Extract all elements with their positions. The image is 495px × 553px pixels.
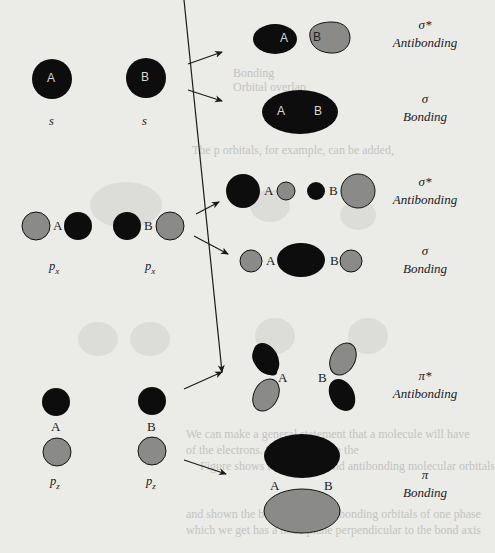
arrow-to-antibonding [196,202,219,214]
pz-a-top-lobe [42,388,70,416]
mo-name-bonding: Bonding [390,485,460,501]
mo-name-bonding: Bonding [390,109,460,125]
sigma-star-lobe-a [253,24,297,54]
atom-label-a: A [53,218,62,234]
pz-b-bottom-lobe [138,437,166,465]
mo-name-bonding: Bonding [390,261,460,277]
pi-bonding-top-lobe [264,434,340,478]
s-row [32,22,350,134]
sigma-px-central-lobe [277,243,325,277]
atom-label-a: A [270,478,279,494]
atom-label-b: B [313,30,321,44]
orbital-label-s-b: s [142,114,147,129]
px-b-positive-lobe [113,212,141,240]
atom-label-a: A [264,183,273,199]
arrow-to-antibonding [184,372,222,389]
orbital-label-pz-b: pz [146,474,156,491]
arrow-to-bonding [194,236,228,254]
arrow-to-bonding [184,460,226,474]
atom-label-a: A [51,419,60,435]
mo-symbol-pi: π [395,467,455,483]
orbital-subscript: z [152,481,156,491]
atom-label-b: B [329,183,338,199]
orbital-label-px-a: px [49,259,59,276]
pz-a-bottom-lobe [43,438,71,466]
orbital-label-px-b: px [145,259,155,276]
atom-label-a: A [266,253,275,269]
sigma-star-px-large-negative [341,174,375,208]
sigma-px-left-negative [240,250,262,272]
sigma-star-px-large-positive [226,174,260,208]
mo-name-antibonding: Antibonding [390,386,460,402]
atom-label-b: B [144,218,153,234]
mo-symbol-sigma: σ [395,243,455,259]
px-row [22,174,375,277]
atom-label-a: A [277,104,285,118]
px-b-negative-lobe [156,212,184,240]
px-a-negative-lobe [22,212,50,240]
atom-label-b: B [324,478,333,494]
orbital-label-pz-a: pz [50,474,60,491]
atom-label-a: A [278,370,287,386]
sigma-bonding-lobe [262,90,338,134]
atom-label-b: B [318,370,327,386]
mo-symbol-sigma-star: σ* [395,174,455,190]
pz-b-top-lobe [138,387,166,415]
mo-name-antibonding: Antibonding [390,192,460,208]
atom-label-b: B [330,253,339,269]
sigma-px-right-negative [340,250,362,272]
pi-star-b-bottom-lobe [323,374,360,415]
atom-label-b: B [147,419,156,435]
px-a-positive-lobe [64,212,92,240]
sigma-star-px-small-negative [277,182,295,200]
sigma-star-px-small-positive [307,182,325,200]
pi-star-b-top-lobe [324,338,361,379]
mo-name-antibonding: Antibonding [390,35,460,51]
pi-bonding-bottom-lobe [264,489,340,533]
atom-label-a: A [47,71,55,85]
mo-symbol-pi-star: π* [395,368,455,384]
mo-symbol-sigma-star: σ* [395,17,455,33]
arrow-to-antibonding [188,52,222,64]
atom-label-b: B [314,104,322,118]
mo-symbol-sigma: σ [395,91,455,107]
atom-label-b: B [141,70,149,84]
orbital-subscript: z [56,481,60,491]
orbital-label-s-a: s [49,114,54,129]
atom-label-a: A [280,31,288,45]
orbital-subscript: x [55,266,59,276]
arrow-to-antibonding [184,0,222,372]
orbital-subscript: x [151,266,155,276]
